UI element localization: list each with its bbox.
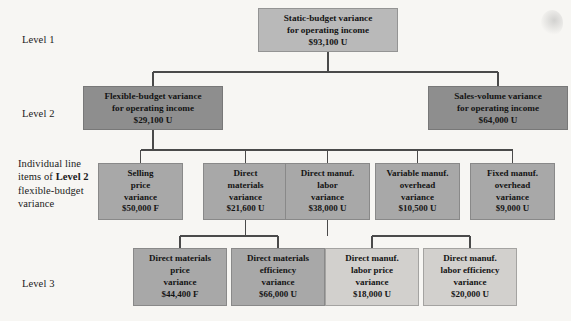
node-amount: $18,000 U (353, 289, 391, 301)
node-amount: $50,000 F (122, 203, 159, 215)
node-variable-manuf-overhead-variance: Variable manuf. overhead variance $10,50… (375, 163, 460, 220)
node-line-2: price (131, 180, 151, 192)
row-label-level-3: Level 3 (22, 277, 54, 290)
node-selling-price-variance: Selling price variance $50,000 F (98, 163, 183, 220)
node-line-3: variance (496, 192, 529, 204)
line-items-suffix: flexible-budget variance (18, 185, 84, 209)
variance-analysis-diagram: Level 1 Level 2 Individual line items of… (0, 0, 571, 321)
scan-artifact-smudge (541, 10, 563, 36)
node-amount: $93,100 U (309, 36, 348, 48)
node-line-2: price (170, 265, 190, 277)
node-line-3: variance (229, 192, 262, 204)
node-line-1: Fixed manuf. (487, 168, 538, 180)
node-flexible-budget-variance: Flexible-budget variance for operating i… (83, 86, 223, 130)
node-line-2: materials (228, 180, 264, 192)
node-line-2: for operating income (287, 24, 369, 36)
node-line-2: overhead (495, 180, 531, 192)
node-amount: $20,000 U (451, 289, 489, 301)
node-line-2: for operating income (457, 102, 539, 114)
node-line-3: variance (454, 277, 487, 289)
node-amount: $44,400 F (162, 289, 199, 301)
node-direct-manuf-labor-efficiency-variance: Direct manuf. labor efficiency variance … (423, 248, 517, 306)
node-amount: $64,000 U (479, 114, 518, 126)
node-line-1: Flexible-budget variance (104, 90, 201, 102)
node-direct-materials-efficiency-variance: Direct materials efficiency variance $66… (231, 248, 325, 306)
node-direct-materials-price-variance: Direct materials price variance $44,400 … (133, 248, 227, 306)
node-line-1: Direct materials (149, 253, 211, 265)
node-amount: $38,000 U (309, 203, 347, 215)
row-label-level-2: Level 2 (22, 107, 54, 120)
node-fixed-manuf-overhead-variance: Fixed manuf. overhead variance $9,000 U (470, 163, 555, 220)
node-amount: $21,600 U (227, 203, 265, 215)
node-line-1: Static-budget variance (284, 12, 373, 24)
node-line-2: labor (317, 180, 338, 192)
node-line-1: Direct manuf. (301, 168, 354, 180)
node-line-1: Direct materials (247, 253, 309, 265)
node-amount: $66,000 U (259, 289, 297, 301)
node-direct-manuf-labor-price-variance: Direct manuf. labor price variance $18,0… (325, 248, 419, 306)
node-amount: $9,000 U (496, 203, 530, 215)
node-line-2: labor efficiency (440, 265, 499, 277)
node-line-1: Direct manuf. (345, 253, 398, 265)
row-label-line-items: Individual line items of Level 2 flexibl… (18, 157, 90, 211)
node-amount: $29,100 U (134, 114, 173, 126)
node-line-3: variance (311, 192, 344, 204)
node-static-budget-variance: Static-budget variance for operating inc… (258, 8, 398, 52)
node-line-2: for operating income (112, 102, 194, 114)
node-line-1: Direct manuf. (443, 253, 496, 265)
node-line-1: Direct (234, 168, 258, 180)
node-line-2: overhead (400, 180, 436, 192)
node-line-3: variance (124, 192, 157, 204)
node-direct-manuf-labor-variance: Direct manuf. labor variance $38,000 U (285, 163, 370, 220)
node-line-1: Sales-volume variance (454, 90, 542, 102)
node-line-3: variance (164, 277, 197, 289)
node-line-1: Selling (127, 168, 153, 180)
node-line-3: variance (262, 277, 295, 289)
node-line-1: Variable manuf. (386, 168, 448, 180)
node-line-3: variance (401, 192, 434, 204)
node-direct-materials-variance: Direct materials variance $21,600 U (203, 163, 288, 220)
node-line-2: labor price (351, 265, 393, 277)
node-line-2: efficiency (260, 265, 296, 277)
line-items-bold: Level 2 (56, 171, 89, 182)
node-amount: $10,500 U (399, 203, 437, 215)
row-label-level-1: Level 1 (22, 33, 54, 46)
node-line-3: variance (356, 277, 389, 289)
node-sales-volume-variance: Sales-volume variance for operating inco… (428, 86, 568, 130)
